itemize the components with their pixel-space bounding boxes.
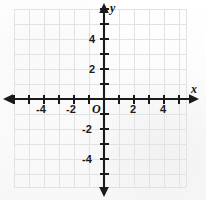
y-tick-label-neg4: -4	[82, 154, 92, 165]
y-axis-bottom-arrowhead	[99, 187, 109, 197]
x-tick-label-4: 4	[160, 104, 166, 115]
x-axis-name-label: x	[191, 83, 197, 95]
y-tick-label-4: 4	[89, 34, 95, 45]
origin-label: O	[92, 103, 101, 115]
coordinate-plane-figure: -4 -2 2 4 4 2 -2 -4 O x y	[0, 0, 206, 200]
x-tick-label-2: 2	[130, 104, 136, 115]
x-tick-label-neg2: -2	[66, 104, 76, 115]
y-tick-label-neg2: -2	[82, 124, 92, 135]
x-axis-left-arrowhead	[3, 94, 13, 104]
y-tick-label-2: 2	[89, 64, 95, 75]
x-tick-label-neg4: -4	[36, 104, 46, 115]
y-axis-top-arrowhead	[99, 3, 109, 13]
y-axis-name-label: y	[110, 2, 115, 14]
coordinate-plane-svg	[0, 0, 206, 200]
axes	[8, 8, 194, 192]
